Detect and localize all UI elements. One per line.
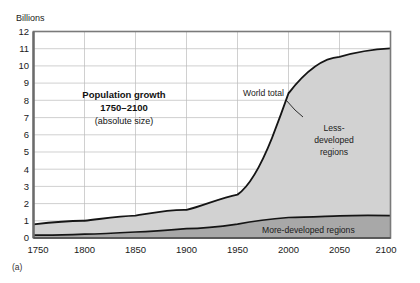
y-tick-9: 9 <box>24 77 29 88</box>
y-tick-4: 4 <box>24 164 29 175</box>
less-developed-label-line-3: regions <box>320 147 348 157</box>
more-developed-label: More-developed regions <box>262 225 355 235</box>
y-tick-7: 7 <box>24 112 29 123</box>
y-tick-5: 5 <box>24 146 29 157</box>
y-tick-8: 8 <box>24 95 29 106</box>
x-tick-1850: 1850 <box>125 244 146 255</box>
y-tick-11: 11 <box>19 43 29 54</box>
less-developed-label-line-2: developed <box>314 135 354 145</box>
y-tick-0: 0 <box>24 232 29 243</box>
panel-label: (a) <box>12 262 23 272</box>
population-growth-chart: Billions 12 11 10 9 <box>0 0 420 283</box>
x-tick-1800: 1800 <box>74 244 95 255</box>
annotation-line-1: Population growth <box>82 89 166 100</box>
y-axis-title: Billions <box>16 13 45 23</box>
annotation-line-3: (absolute size) <box>95 116 154 126</box>
x-tick-2050: 2050 <box>329 244 350 255</box>
x-tick-2100: 2100 <box>375 244 396 255</box>
x-tick-2000: 2000 <box>278 244 299 255</box>
x-tick-1950: 1950 <box>227 244 248 255</box>
y-tick-6: 6 <box>24 129 29 140</box>
less-developed-label-line-1: Less- <box>323 123 344 133</box>
y-tick-1: 1 <box>24 215 29 226</box>
y-tick-10: 10 <box>18 60 29 71</box>
x-tick-1750: 1750 <box>27 244 48 255</box>
y-tick-3: 3 <box>24 181 29 192</box>
y-tick-2: 2 <box>24 198 29 209</box>
world-total-label: World total <box>243 88 284 98</box>
x-tick-1900: 1900 <box>176 244 197 255</box>
y-tick-12: 12 <box>18 26 29 37</box>
annotation-line-2: 1750–2100 <box>100 102 148 113</box>
